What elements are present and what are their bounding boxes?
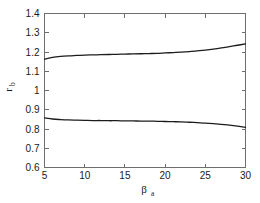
y-tick-label-1: 1 [34, 85, 40, 96]
data-curve-1 [45, 44, 246, 59]
y-tick-label-0.7: 0.7 [26, 143, 40, 154]
x-tick-label-5: 5 [42, 170, 48, 181]
x-axis-tick-labels: 51015202530 [42, 170, 252, 181]
y-tick-label-1.2: 1.2 [26, 47, 40, 58]
figure-container: 51015202530 0.60.70.80.911.11.21.31.4 β … [0, 0, 260, 203]
x-tick-label-10: 10 [79, 170, 91, 181]
x-axis-title-subscript: a [151, 189, 155, 198]
y-axis-title: r b [2, 82, 17, 92]
data-curves [45, 44, 246, 127]
x-axis-title-text: β [141, 183, 147, 195]
chart-plot: 51015202530 0.60.70.80.911.11.21.31.4 β … [0, 0, 260, 203]
y-axis-title-subscript: b [8, 82, 17, 86]
x-tick-label-20: 20 [160, 170, 172, 181]
x-tick-label-25: 25 [200, 170, 212, 181]
y-tick-label-1.1: 1.1 [26, 66, 40, 77]
x-axis-ticks [45, 14, 246, 168]
y-tick-label-0.9: 0.9 [26, 104, 40, 115]
data-curve-2 [45, 118, 246, 127]
y-tick-label-0.8: 0.8 [26, 124, 40, 135]
axes-frame [45, 14, 246, 168]
y-axis-title-text: r [2, 88, 14, 92]
y-tick-label-1.4: 1.4 [26, 8, 40, 19]
x-tick-label-15: 15 [119, 170, 131, 181]
x-tick-label-30: 30 [240, 170, 252, 181]
y-tick-label-0.6: 0.6 [26, 162, 40, 173]
axes-box [45, 14, 246, 168]
y-axis-ticks [45, 14, 246, 168]
y-tick-label-1.3: 1.3 [26, 27, 40, 38]
y-axis-tick-labels: 0.60.70.80.911.11.21.31.4 [26, 8, 40, 173]
x-axis-title: β a [141, 183, 155, 198]
